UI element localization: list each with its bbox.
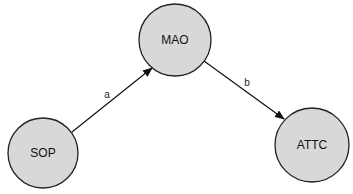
arrow-sop-to-mao: [72, 68, 152, 132]
node-sop-label: SOP: [30, 146, 55, 160]
node-attc-label: ATTC: [297, 138, 328, 152]
node-mao: MAO: [139, 4, 211, 76]
edge-label-b: b: [244, 77, 250, 88]
node-mao-label: MAO: [161, 33, 188, 47]
arrow-mao-to-attc: [204, 61, 284, 119]
edge-a: a: [72, 68, 152, 132]
node-sop: SOP: [8, 118, 78, 188]
node-attc: ATTC: [275, 108, 349, 182]
edge-label-a: a: [104, 89, 110, 100]
edge-b: b: [204, 61, 284, 119]
path-diagram: a b SOP MAO ATTC: [0, 0, 353, 194]
